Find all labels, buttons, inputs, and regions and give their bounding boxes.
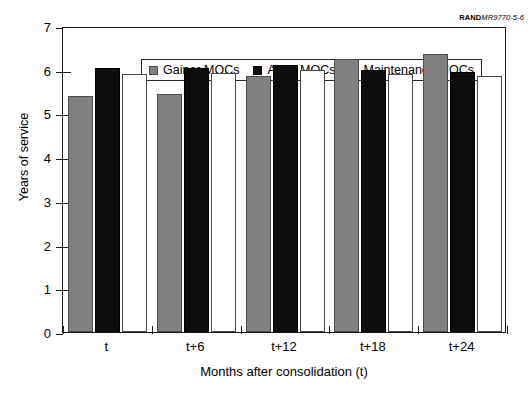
y-axis-label: 0 — [25, 327, 51, 340]
x-axis-label-t+6: t+6 — [155, 340, 235, 353]
y-tick-1 — [56, 290, 63, 291]
figure-bar-chart: RANDMR9770-5-6 Years of service 01234567… — [0, 0, 532, 396]
bar-gainer-t+6 — [157, 94, 182, 332]
y-tick-2 — [56, 247, 63, 248]
bar-maintenance-t+6 — [211, 73, 236, 332]
y-tick-5 — [56, 115, 63, 116]
x-tick — [241, 326, 242, 334]
x-tick — [418, 326, 419, 334]
legend-swatch-army — [253, 66, 262, 75]
y-axis-label: 2 — [25, 240, 51, 253]
x-axis-label-t+18: t+18 — [333, 340, 413, 353]
plot-area: 01234567 Gainer MOCsArmy MOCsMaintenance… — [62, 27, 506, 333]
bar-army-t+18 — [361, 70, 386, 332]
bar-army-t+6 — [184, 68, 209, 332]
x-axis-title: Months after consolidation (t) — [62, 364, 506, 379]
bar-maintenance-t+24 — [477, 76, 502, 332]
bar-army-t — [95, 68, 120, 332]
y-tick-7 — [56, 28, 63, 29]
x-axis-label-t+24: t+24 — [422, 340, 502, 353]
x-tick — [329, 326, 330, 334]
bar-army-t+12 — [273, 65, 298, 332]
y-tick-4 — [56, 159, 63, 160]
x-tick — [507, 326, 508, 334]
x-tick — [152, 326, 153, 334]
y-axis-label: 6 — [25, 65, 51, 78]
x-tick — [63, 326, 64, 334]
y-axis-label: 5 — [25, 108, 51, 121]
source-credit: RANDMR9770-5-6 — [459, 13, 524, 22]
bar-maintenance-t — [122, 74, 147, 332]
x-axis-label-t+12: t+12 — [244, 340, 324, 353]
y-axis-label: 4 — [25, 152, 51, 165]
x-axis-label-t: t — [66, 340, 146, 353]
source-credit-document: MR9770-5-6 — [481, 13, 524, 22]
source-credit-mark: RAND — [459, 13, 481, 22]
y-axis-label: 1 — [25, 283, 51, 296]
legend-swatch-gainer — [149, 66, 158, 75]
bar-maintenance-t+12 — [300, 70, 325, 332]
y-tick-3 — [56, 203, 63, 204]
bar-gainer-t+24 — [423, 54, 448, 332]
y-tick-6 — [56, 72, 63, 73]
y-axis-label: 7 — [25, 21, 51, 34]
bar-gainer-t+18 — [334, 59, 359, 332]
y-tick-inner-6 — [63, 72, 71, 73]
bar-maintenance-t+18 — [388, 74, 413, 332]
bar-gainer-t+12 — [246, 76, 271, 332]
y-axis-label: 3 — [25, 196, 51, 209]
bar-gainer-t — [68, 96, 93, 332]
y-tick-0 — [56, 334, 63, 335]
bar-army-t+24 — [450, 72, 475, 332]
